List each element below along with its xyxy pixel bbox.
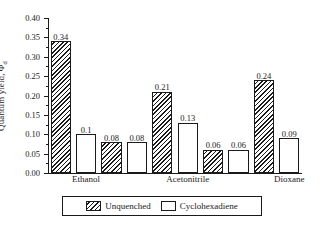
y-axis-tick-label: 0.30 <box>0 53 40 62</box>
bar-cyclohexadiene-9: 0.09 <box>279 138 299 173</box>
x-axis-label-dioxane: Dioxane <box>274 175 305 184</box>
x-axis-label-ethanol: Ethanol <box>72 175 100 184</box>
y-axis-tick-label: 0.20 <box>0 91 40 100</box>
legend-swatch-hatched-icon <box>86 201 101 211</box>
legend-item-cyclohexadiene: Cyclohexadiene <box>161 201 238 211</box>
bars-layer: 0.340.10.080.080.210.130.060.060.240.09 <box>48 18 302 173</box>
chart-legend: Unquenched Cyclohexadiene <box>62 196 262 216</box>
y-axis-tick-label: 0.10 <box>0 130 40 139</box>
bar-unquenched-8: 0.24 <box>254 80 274 173</box>
bar-value-label: 0.24 <box>256 72 271 81</box>
y-axis-tick-label: 0.25 <box>0 72 40 81</box>
bar-unquenched-2: 0.08 <box>101 142 121 173</box>
bar-cyclohexadiene-3: 0.08 <box>127 142 147 173</box>
bar-value-label: 0.1 <box>81 126 92 135</box>
bar-unquenched-4: 0.21 <box>152 92 172 173</box>
y-axis-tick-label: 0.40 <box>0 14 40 23</box>
bar-cyclohexadiene-1: 0.1 <box>76 134 96 173</box>
quantum-yield-bar-chart: Quantum yield, Φd 0.000.050.100.150.200.… <box>0 0 323 227</box>
x-axis-label-acetonitrile: Acetonitrile <box>166 175 209 184</box>
bar-value-label: 0.06 <box>206 141 221 150</box>
bar-value-label: 0.21 <box>155 83 170 92</box>
y-axis-tick-label: 0.05 <box>0 149 40 158</box>
bar-unquenched-6: 0.06 <box>203 150 223 173</box>
legend-item-unquenched: Unquenched <box>86 201 150 211</box>
y-axis-tick-label: 0.15 <box>0 111 40 120</box>
bar-value-label: 0.09 <box>282 130 297 139</box>
bar-cyclohexadiene-7: 0.06 <box>228 150 248 173</box>
bar-value-label: 0.13 <box>180 114 195 123</box>
bar-unquenched-0: 0.34 <box>51 41 71 173</box>
y-axis-tick-label: 0.00 <box>0 169 40 178</box>
y-axis-tick-label: 0.35 <box>0 33 40 42</box>
bar-value-label: 0.06 <box>231 141 246 150</box>
bar-value-label: 0.08 <box>129 134 144 143</box>
y-axis-title-subscript: d <box>1 61 8 64</box>
bar-value-label: 0.08 <box>104 134 119 143</box>
legend-label-cyclohexadiene: Cyclohexadiene <box>180 202 238 211</box>
legend-label-unquenched: Unquenched <box>105 202 150 211</box>
bar-value-label: 0.34 <box>53 33 68 42</box>
bar-cyclohexadiene-5: 0.13 <box>178 123 198 173</box>
legend-swatch-white-icon <box>161 201 176 211</box>
